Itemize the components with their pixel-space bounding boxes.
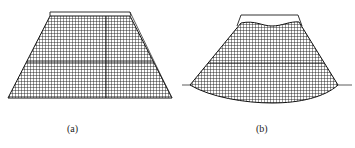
panel-a-mesh (0, 10, 180, 102)
caption-a: (a) (67, 123, 78, 134)
mesh-figure (0, 0, 355, 148)
panel-b-mesh (180, 15, 352, 110)
panel-a-top-outline (50, 12, 131, 16)
caption-b: (b) (256, 123, 268, 134)
